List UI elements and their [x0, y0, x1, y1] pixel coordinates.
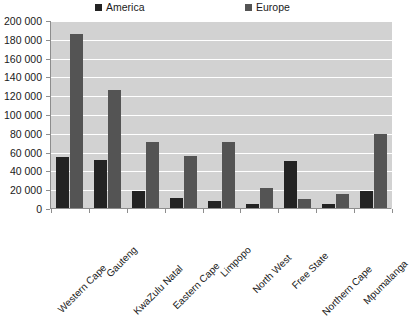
x-tick-mark — [165, 209, 166, 213]
legend-label-america: America — [106, 1, 145, 13]
legend-swatch-europe — [245, 4, 252, 11]
y-tick-mark — [46, 171, 50, 172]
y-tick-label: 120 000 — [4, 91, 42, 101]
bar — [146, 142, 159, 208]
y-tick-mark — [46, 134, 50, 135]
x-tick-mark — [240, 209, 241, 213]
bar — [360, 191, 373, 208]
y-axis: 020 00040 00060 00080 000100 000120 0001… — [0, 21, 46, 209]
bar — [336, 194, 349, 208]
y-tick-label: 140 000 — [4, 72, 42, 82]
x-tick-label: Free State — [323, 217, 364, 258]
y-tick-label: 40 000 — [10, 166, 42, 176]
bar — [222, 142, 235, 208]
chart-legend: America Europe — [0, 0, 394, 18]
x-tick-mark — [203, 209, 204, 213]
bar — [298, 199, 311, 208]
bar — [56, 157, 69, 208]
bar — [260, 188, 273, 208]
y-tick-mark — [46, 153, 50, 154]
legend-item-america: America — [95, 1, 145, 13]
x-tick-label-text: Northern Cape — [320, 263, 374, 317]
bar-group — [278, 21, 316, 208]
bar-group — [89, 21, 127, 208]
bar-group — [354, 21, 392, 208]
y-tick-mark — [46, 209, 50, 210]
bar-group — [203, 21, 241, 208]
y-tick-mark — [46, 59, 50, 60]
x-tick-mark — [127, 209, 128, 213]
bar-group — [240, 21, 278, 208]
y-tick-mark — [46, 96, 50, 97]
y-tick-label: 20 000 — [10, 185, 42, 195]
y-tick-mark — [46, 115, 50, 116]
x-axis: Western CapeGautengKwaZulu NatalEastern … — [51, 209, 391, 278]
y-tick-label: 160 000 — [4, 54, 42, 64]
y-tick-mark — [46, 190, 50, 191]
bar — [322, 204, 335, 208]
x-tick-mark — [51, 209, 52, 213]
y-tick-label: 200 000 — [4, 16, 42, 26]
y-tick-mark — [46, 77, 50, 78]
bar — [132, 191, 145, 208]
bar-group — [316, 21, 354, 208]
bar — [374, 134, 387, 208]
x-tick-label-text: Western Cape — [56, 262, 109, 315]
x-tick-mark — [392, 209, 393, 213]
x-tick-mark — [316, 209, 317, 213]
legend-item-europe: Europe — [245, 1, 290, 13]
bar — [70, 34, 83, 208]
bar — [94, 160, 107, 208]
bar — [246, 204, 259, 208]
bar — [184, 156, 197, 208]
bar-group — [51, 21, 89, 208]
y-tick-label: 60 000 — [10, 148, 42, 158]
bar-group — [165, 21, 203, 208]
x-tick-mark — [89, 209, 90, 213]
x-tick-label-text: North West — [250, 252, 293, 295]
y-tick-mark — [46, 21, 50, 22]
y-tick-label: 180 000 — [4, 35, 42, 45]
bar — [170, 198, 183, 208]
y-tick-mark — [46, 40, 50, 41]
y-tick-label: 100 000 — [4, 110, 42, 120]
y-tick-label: 0 — [36, 204, 42, 214]
y-tick-label: 80 000 — [10, 129, 42, 139]
bar-group — [127, 21, 165, 208]
bar — [284, 161, 297, 208]
bar — [208, 201, 221, 208]
bars-layer — [51, 21, 391, 208]
x-tick-mark — [354, 209, 355, 213]
x-tick-mark — [278, 209, 279, 213]
legend-swatch-america — [95, 4, 102, 11]
legend-label-europe: Europe — [256, 1, 290, 13]
bar — [108, 90, 121, 208]
